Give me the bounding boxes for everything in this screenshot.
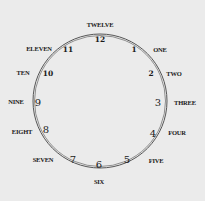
hour-word: SEVEN bbox=[33, 157, 54, 164]
hour-word: ONE bbox=[153, 47, 167, 54]
hour-numeral: 9 bbox=[35, 98, 41, 108]
hour-numeral: 4 bbox=[150, 129, 156, 139]
clock-diagram: 12TWELVE1ONE2TWO3THREE4FOUR5FIVE6SIX7SEV… bbox=[0, 0, 205, 201]
hour-numeral: 2 bbox=[148, 70, 153, 78]
hour-numeral: 5 bbox=[124, 155, 130, 165]
hour-numeral: 1 bbox=[131, 46, 136, 54]
hour-word: TWO bbox=[166, 71, 181, 78]
hour-numeral: 10 bbox=[43, 70, 53, 78]
hour-word: THREE bbox=[174, 100, 196, 107]
hour-numeral: 6 bbox=[96, 160, 102, 170]
hour-numeral: 12 bbox=[95, 36, 105, 44]
hour-word: SIX bbox=[94, 179, 104, 186]
hour-numeral: 8 bbox=[43, 125, 49, 135]
hour-word: FIVE bbox=[149, 158, 164, 165]
hour-word: NINE bbox=[8, 99, 23, 106]
hour-word: TEN bbox=[17, 70, 30, 77]
hour-numeral: 3 bbox=[155, 98, 161, 108]
hour-numeral: 11 bbox=[63, 46, 73, 54]
hour-word: TWELVE bbox=[87, 22, 114, 29]
hour-numeral: 7 bbox=[70, 155, 76, 165]
hour-word: FOUR bbox=[168, 130, 186, 137]
hour-word: EIGHT bbox=[12, 129, 32, 136]
hour-word: ELEVEN bbox=[26, 46, 52, 53]
